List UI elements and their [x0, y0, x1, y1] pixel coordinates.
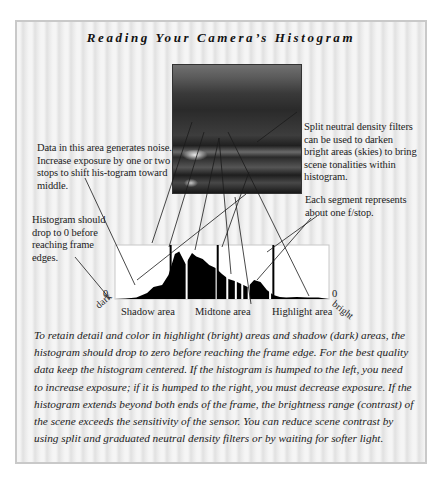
explanation-paragraph: To retain detail and color in highlight … — [34, 327, 414, 447]
shadow-area-label: Shadow area — [121, 306, 175, 317]
midtone-area-label: Midtone area — [195, 306, 251, 317]
dark-end-label: dark — [93, 291, 114, 311]
zero-left-label: 0 — [103, 288, 108, 299]
sunset-seascape-photo — [172, 64, 302, 194]
annotation-drop-to-zero: Histogram should drop to 0 before reachi… — [32, 214, 122, 264]
zero-right-label: 0 — [332, 288, 337, 299]
histogram-explainer-panel: Reading Your Camera’s Histogram Data in … — [15, 20, 427, 464]
annotation-data-area: Data in this area generates noise. Incre… — [37, 142, 187, 192]
annotation-segment-fstop: Each segment represents about one f/stop… — [305, 194, 420, 219]
bright-end-label: bright — [330, 298, 356, 321]
histogram-curve — [115, 252, 329, 300]
figure-title: Reading Your Camera’s Histogram — [17, 30, 425, 46]
fstop-segment-dividers — [171, 245, 274, 299]
histogram-frame — [115, 245, 329, 299]
highlight-area-label: Highlight area — [272, 306, 332, 317]
histogram-gaps — [186, 246, 271, 299]
annotation-split-nd-filters: Split neutral density filters can be use… — [304, 121, 419, 184]
